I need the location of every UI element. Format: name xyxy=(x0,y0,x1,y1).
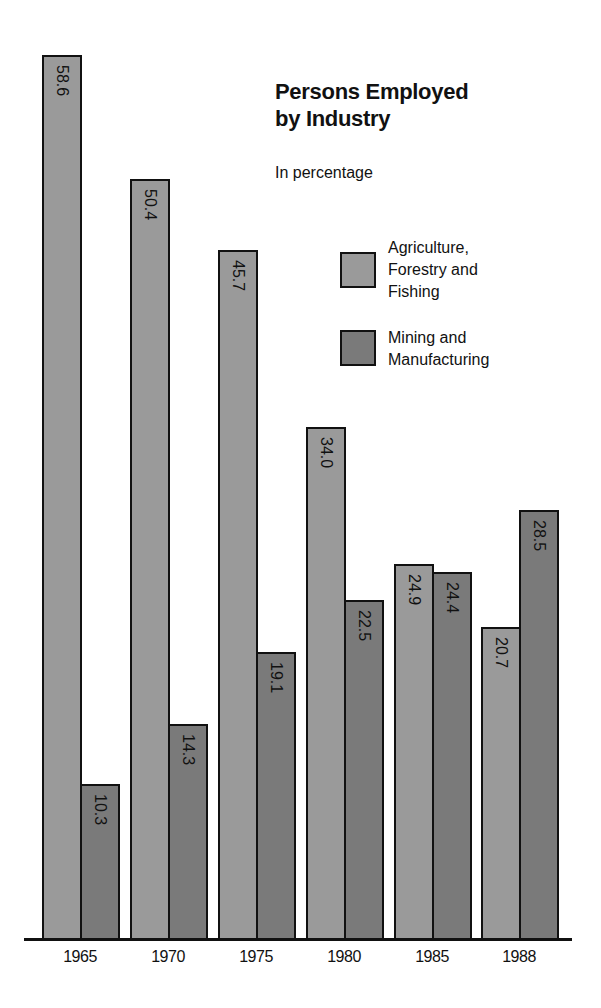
bar-value-label: 24.9 xyxy=(405,574,423,605)
chart-title: Persons Employed by Industry xyxy=(275,78,468,132)
bar-mining-1965: 10.3 xyxy=(80,784,120,941)
bar-value-label: 34.0 xyxy=(317,437,335,468)
bar-value-label: 28.5 xyxy=(530,520,548,551)
bar-agriculture-1965: 58.6 xyxy=(42,55,82,941)
bar-mining-1980: 22.5 xyxy=(344,600,384,941)
bar-value-label: 19.1 xyxy=(267,662,285,693)
bar-agriculture-1975: 45.7 xyxy=(218,250,258,941)
chart-title-line2: by Industry xyxy=(275,105,468,132)
x-tick-label: 1985 xyxy=(394,948,470,966)
x-tick-label: 1980 xyxy=(306,948,382,966)
bar-agriculture-1988: 20.7 xyxy=(481,627,521,941)
bar-value-label: 10.3 xyxy=(91,794,109,825)
x-tick-label: 1970 xyxy=(130,948,206,966)
x-axis-line xyxy=(24,938,572,941)
x-tick-label: 1965 xyxy=(42,948,118,966)
bar-value-label: 45.7 xyxy=(229,260,247,291)
legend-swatch-mining xyxy=(340,330,376,366)
bar-agriculture-1985: 24.9 xyxy=(394,564,434,941)
bar-mining-1970: 14.3 xyxy=(168,724,208,941)
bar-value-label: 14.3 xyxy=(179,734,197,765)
bar-value-label: 50.4 xyxy=(141,189,159,220)
bar-agriculture-1980: 34.0 xyxy=(306,427,346,941)
bar-agriculture-1970: 50.4 xyxy=(130,179,170,941)
bar-mining-1988: 28.5 xyxy=(519,510,559,941)
legend-label-agriculture: Agriculture, Forestry and Fishing xyxy=(388,237,588,303)
chart-subtitle: In percentage xyxy=(275,164,373,182)
legend-swatch-agriculture xyxy=(340,252,376,288)
bar-value-label: 22.5 xyxy=(355,610,373,641)
bar-mining-1975: 19.1 xyxy=(256,652,296,941)
chart-title-line1: Persons Employed xyxy=(275,78,468,105)
bar-value-label: 58.6 xyxy=(53,65,71,96)
x-tick-label: 1988 xyxy=(481,948,557,966)
bar-value-label: 24.4 xyxy=(443,582,461,613)
legend-label-mining: Mining and Manufacturing xyxy=(388,327,588,371)
bar-value-label: 20.7 xyxy=(492,637,510,668)
x-tick-label: 1975 xyxy=(218,948,294,966)
bar-mining-1985: 24.4 xyxy=(432,572,472,941)
